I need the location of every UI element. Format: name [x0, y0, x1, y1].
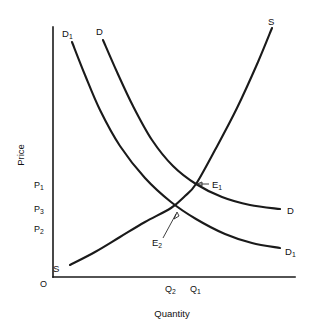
curve-label-d-right: D	[287, 205, 294, 216]
curve-label-s-bottom: S	[53, 263, 59, 274]
axes	[53, 27, 295, 277]
y-tick-label-p3: P3	[34, 204, 44, 215]
supply-demand-figure: Price Quantity O P1 P3 P2 Q2 Q1 E1	[0, 0, 311, 335]
x-axis-title: Quantity	[154, 308, 190, 319]
curve-label-d-top: D	[96, 26, 103, 37]
curves	[70, 28, 280, 265]
equilibrium-label-e2: E2	[152, 237, 162, 249]
leader-lines	[163, 182, 209, 238]
curve-label-s-top: S	[268, 16, 274, 27]
x-tick-label-q2: Q2	[165, 284, 176, 295]
chart-svg: Price Quantity O P1 P3 P2 Q2 Q1 E1	[0, 0, 311, 335]
text-labels: Price Quantity O P1 P3 P2 Q2 Q1 E1	[15, 16, 296, 319]
curve-label-d1-top: D1	[62, 28, 73, 40]
y-axis-title: Price	[15, 144, 26, 166]
curve-s	[70, 28, 272, 265]
y-tick-label-p2: P2	[34, 224, 44, 235]
e2-leader-line	[163, 214, 176, 238]
curve-label-d1-right: D1	[285, 246, 296, 258]
equilibrium-label-e1: E1	[212, 179, 222, 191]
x-tick-label-q1: Q1	[190, 284, 201, 295]
y-tick-label-p1: P1	[34, 180, 44, 191]
curve-d1-shifted-left	[72, 42, 280, 248]
origin-label: O	[40, 279, 47, 289]
curve-d	[103, 40, 280, 209]
